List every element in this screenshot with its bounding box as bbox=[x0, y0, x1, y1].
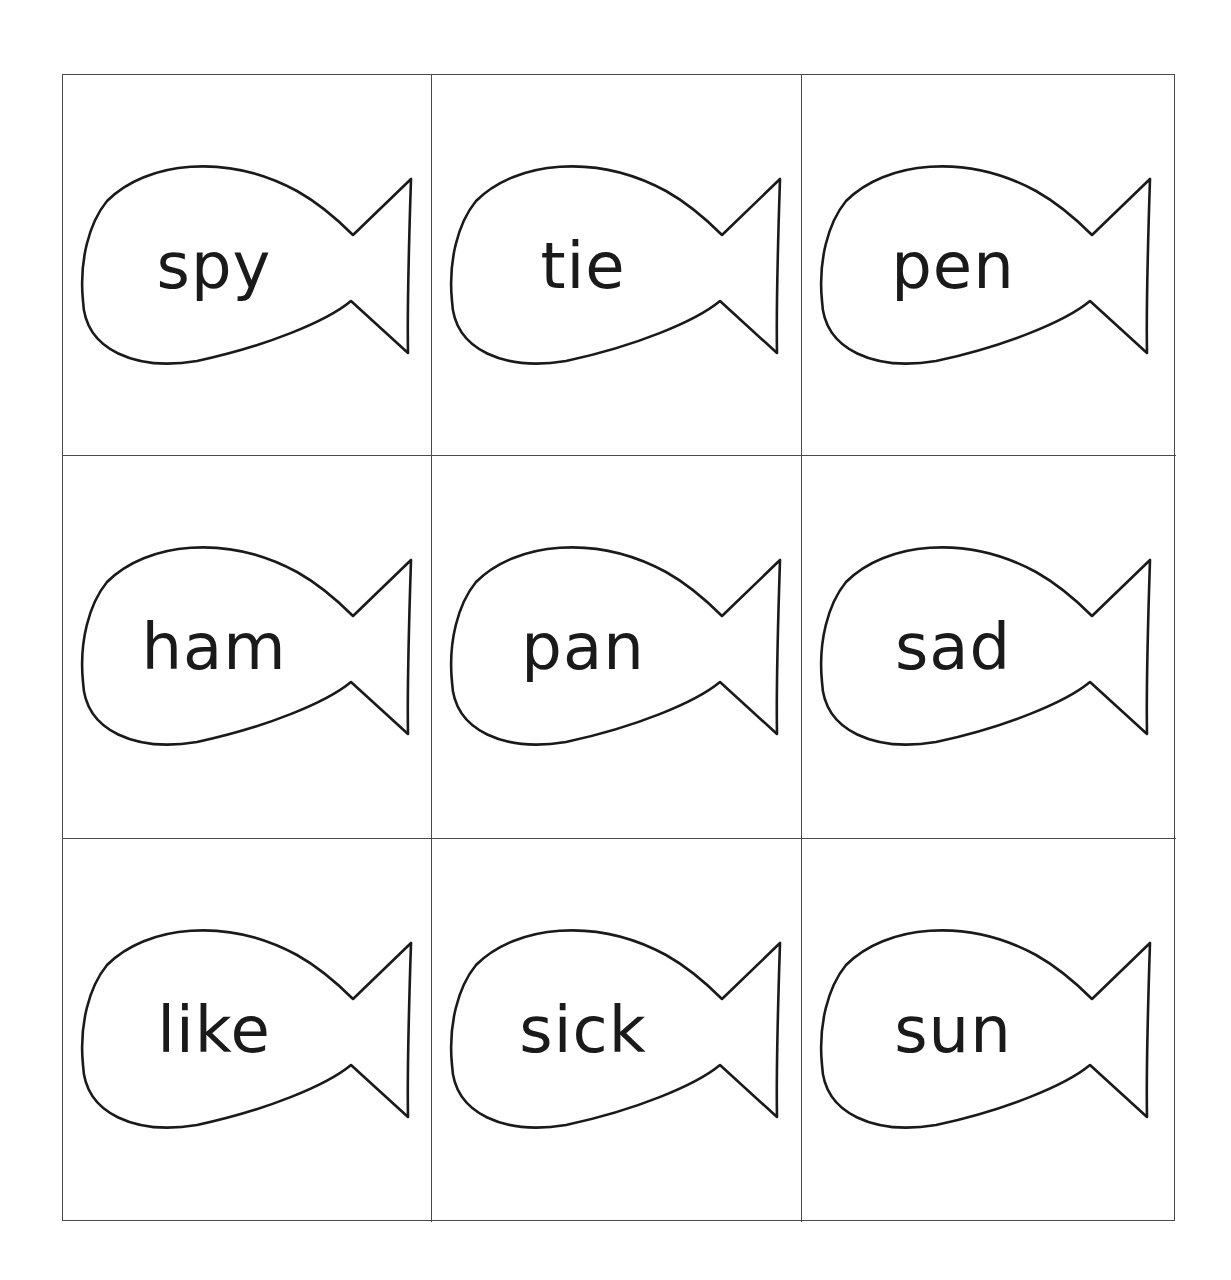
card-word: sun bbox=[816, 925, 1066, 1135]
card-word: sad bbox=[816, 542, 1066, 752]
card-word: pen bbox=[816, 161, 1066, 371]
word-card: pan bbox=[432, 456, 802, 839]
word-card: spy bbox=[63, 75, 432, 456]
word-card: like bbox=[63, 839, 432, 1222]
card-word: spy bbox=[77, 161, 327, 371]
card-word: sick bbox=[446, 925, 696, 1135]
word-card: pen bbox=[802, 75, 1176, 456]
card-word: pan bbox=[446, 542, 696, 752]
word-card: sun bbox=[802, 839, 1176, 1222]
word-card: ham bbox=[63, 456, 432, 839]
card-word: tie bbox=[446, 161, 696, 371]
card-word: like bbox=[77, 925, 327, 1135]
word-card: sick bbox=[432, 839, 802, 1222]
word-card: tie bbox=[432, 75, 802, 456]
word-card: sad bbox=[802, 456, 1176, 839]
card-word: ham bbox=[77, 542, 327, 752]
word-card-grid: spy tie pen ham pan sad like bbox=[62, 74, 1175, 1221]
